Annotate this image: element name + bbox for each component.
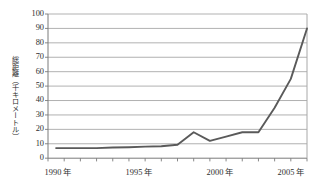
- data-series-line: [56, 28, 307, 148]
- plot-area: [0, 0, 311, 195]
- gridlines: [48, 14, 307, 144]
- line-chart: 総距離（千キロメートル） 100 90 80 70 60 50 40 30 20…: [0, 0, 311, 195]
